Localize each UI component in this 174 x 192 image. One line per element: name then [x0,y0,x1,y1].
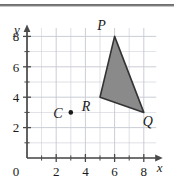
origin-label: 0 [13,164,20,179]
x-axis-name-label: x [156,160,163,175]
x-axis-tick-label: 6 [111,164,118,179]
top-rule-shadow [0,6,174,7]
y-axis-name-label: y [12,22,20,37]
y-axis-tick-label: 2 [13,120,20,135]
x-axis-tick-label: 4 [82,164,89,179]
label-c: C [53,106,63,121]
top-divider-rule [0,4,174,7]
label-q: Q [143,114,153,129]
figure-canvas: 246824680yxPQRC [0,0,174,192]
coordinate-plane-figure: 246824680yxPQRC [0,0,174,192]
y-axis-tick-label: 4 [13,90,20,105]
top-rule-line [0,4,174,6]
y-axis-tick-label: 6 [13,60,20,75]
x-axis-tick-label: 2 [53,164,60,179]
x-axis-tick-label: 8 [141,164,148,179]
label-p: P [96,18,106,33]
label-r: R [81,99,91,114]
point-marker-c [69,110,74,115]
